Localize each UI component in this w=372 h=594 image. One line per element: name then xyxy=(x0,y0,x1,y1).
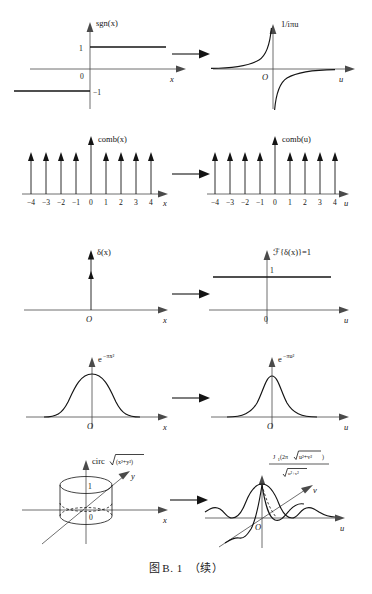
x-axis-arrowhead xyxy=(158,307,168,314)
unity-value-label: 1 xyxy=(270,266,274,275)
tick-label: 0 xyxy=(89,198,93,207)
tick-label: 3 xyxy=(134,198,138,207)
gaussian-x-function-label: e −πx² xyxy=(98,353,114,364)
comb-impulse-group xyxy=(212,136,338,194)
tick-label: 4 xyxy=(333,198,337,207)
tick-label: −2 xyxy=(57,198,65,207)
circ-origin-label: 0 xyxy=(89,513,93,522)
comb-spike-head xyxy=(43,152,49,161)
tick-label: −4 xyxy=(211,198,219,207)
jinc-numerator-fn: J xyxy=(273,454,276,460)
circ-height-label: 1 xyxy=(88,482,92,491)
comb-spike-head xyxy=(317,152,323,161)
figure-row-delta: δ(x) O x ℱ{δ(x)}=1 1 0 u xyxy=(0,244,372,329)
caption-prefix: 图 xyxy=(149,562,161,574)
delta-x-axis-label: x xyxy=(162,315,167,325)
hyperbola-right-branch xyxy=(275,70,335,110)
x-axis-arrowhead xyxy=(176,66,186,73)
y-axis-arrowhead xyxy=(119,471,131,480)
gaussian-u-axis-label: u xyxy=(344,422,348,432)
figure-row-sgn: sgn(x) 1 −1 0 x 1/iπ xyxy=(0,14,372,114)
y-axis-arrowhead xyxy=(89,357,96,367)
comb-spike-head xyxy=(287,152,293,161)
comb-impulse-group xyxy=(28,136,154,194)
figure-page: sgn(x) 1 −1 0 x 1/iπ xyxy=(0,0,372,594)
comb-x-axis-label: x xyxy=(162,198,167,208)
tick-label: −3 xyxy=(42,198,50,207)
gaussian-x-origin-label: O xyxy=(87,421,93,431)
tick-label: −1 xyxy=(256,198,264,207)
comb-x-function-label: comb(x) xyxy=(98,134,127,144)
circ-function-label: circ (x²+y²) xyxy=(92,455,144,467)
tick-label: −3 xyxy=(226,198,234,207)
comb-spike-head xyxy=(118,152,124,161)
sgn-origin-label: 0 xyxy=(80,72,84,81)
jinc-origin-label: O xyxy=(255,522,261,532)
panel-gaussian-frequency: e −πu² O u xyxy=(205,344,370,439)
comb-spike-head xyxy=(302,152,308,161)
sgn-value-bottom-label: −1 xyxy=(93,88,101,97)
plot-comb-u: comb(u) −4 −3 −2 −1 0 1 2 3 4 u xyxy=(205,134,370,219)
u-axis-arrowhead xyxy=(339,307,349,314)
comb-u-function-label: comb(u) xyxy=(282,134,311,144)
v-axis-arrowhead xyxy=(269,357,276,367)
comb-spike-head xyxy=(257,152,263,161)
z-axis-arrowhead xyxy=(83,460,90,470)
x-axis-arrowhead xyxy=(158,507,168,514)
gaussian-u-base: e xyxy=(278,354,282,364)
tick-label: −1 xyxy=(72,198,80,207)
v-axis-arrowhead xyxy=(301,485,313,494)
jinc-function-label: J 1 (2π u²+v² ) u²+v² xyxy=(269,451,329,477)
delta-spectrum-axis-label: u xyxy=(344,315,348,325)
jinc-v-axis-label: v xyxy=(313,485,317,495)
comb-spike-head xyxy=(242,152,248,161)
delta-origin-label: O xyxy=(86,314,92,324)
inv-i-pi-u-origin-label: O xyxy=(262,72,268,82)
tick-label: −4 xyxy=(27,198,35,207)
tick-label: 1 xyxy=(288,198,292,207)
plot-inv-i-pi-u: 1/iπu O u xyxy=(205,14,370,114)
hyperbola-left-branch xyxy=(211,28,271,68)
jinc-numerator-arg: (2π xyxy=(280,454,288,461)
jinc-u-axis-label: u xyxy=(340,523,344,533)
tick-label: 4 xyxy=(149,198,153,207)
delta-spectrum-origin-label: 0 xyxy=(264,315,268,324)
tick-label: −2 xyxy=(241,198,249,207)
panel-sgn-spatial: sgn(x) 1 −1 0 x xyxy=(20,14,200,114)
circ-y-axis-label: y xyxy=(130,471,135,481)
u-axis-arrowhead xyxy=(339,191,349,198)
delta-impulse-midhead xyxy=(88,271,94,279)
comb-spike-head xyxy=(212,152,218,161)
sgn-function-label: sgn(x) xyxy=(96,18,118,28)
jinc-numerator-radicand: u²+v² xyxy=(299,454,312,460)
figure-row-comb: comb(x) −4 −3 −2 −1 0 1 2 3 4 x xyxy=(0,134,372,219)
x-axis-arrowhead xyxy=(158,191,168,198)
tick-label: 2 xyxy=(303,198,307,207)
inv-i-pi-u-axis-label: u xyxy=(339,74,343,84)
plot-gaussian-u: e −πu² O u xyxy=(205,344,370,439)
comb-spike-center-head xyxy=(272,136,278,145)
sgn-x-axis-label: x xyxy=(169,74,174,84)
comb-spike-head xyxy=(73,152,79,161)
x-axis-arrowhead xyxy=(158,414,168,421)
y-axis-arrowhead xyxy=(87,22,94,32)
delta-spectrum-function-label: ℱ{δ(x)}=1 xyxy=(273,247,311,257)
comb-spike-center-head xyxy=(88,136,94,145)
comb-spike-head xyxy=(133,152,139,161)
caption-number: B. 1 xyxy=(162,562,182,574)
comb-x-tick-labels: −4 −3 −2 −1 0 1 2 3 4 xyxy=(27,198,153,207)
comb-u-tick-labels: −4 −3 −2 −1 0 1 2 3 4 xyxy=(211,198,337,207)
panel-sgn-frequency: 1/iπu O u xyxy=(205,14,370,114)
panel-comb-frequency: comb(u) −4 −3 −2 −1 0 1 2 3 4 u xyxy=(205,134,370,219)
comb-spike-head xyxy=(332,152,338,161)
gaussian-u-origin-label: O xyxy=(267,421,273,431)
u-axis-arrowhead xyxy=(345,66,355,73)
plot-sgn: sgn(x) 1 −1 0 x xyxy=(20,14,200,114)
comb-u-axis-label: u xyxy=(344,198,348,208)
plot-delta-spectrum: ℱ{δ(x)}=1 1 0 u xyxy=(205,244,370,329)
comb-spike-head xyxy=(28,152,34,161)
tick-label: 0 xyxy=(273,198,277,207)
circ-x-axis-label: x xyxy=(162,515,167,525)
comb-spike-head xyxy=(148,152,154,161)
figure-caption: 图B. 1（续） xyxy=(0,559,372,575)
